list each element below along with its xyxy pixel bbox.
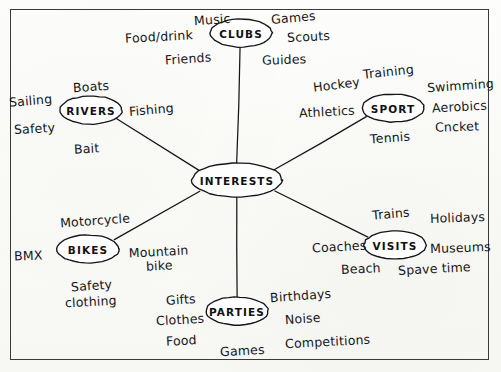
leaf-sport-4: Aerobics — [432, 99, 488, 115]
node-ellipse-rivers[interactable] — [60, 96, 122, 124]
mindmap-canvas — [0, 0, 501, 372]
leaf-sport-5: Cncket — [435, 119, 480, 134]
connector-interests-to-sport — [274, 117, 367, 170]
leaf-clubs-4: Friends — [165, 50, 212, 67]
leaf-visits-0: Trains — [371, 205, 410, 222]
node-ellipse-sport[interactable] — [362, 94, 424, 122]
node-ellipse-parties[interactable] — [206, 297, 268, 325]
node-ellipse-interests[interactable] — [191, 163, 282, 197]
leaf-parties-5: Games — [220, 343, 265, 359]
leaf-parties-3: Noise — [285, 311, 322, 327]
leaf-visits-4: Beach — [341, 261, 381, 277]
node-ellipse-bikes[interactable] — [57, 235, 120, 263]
leaf-rivers-3: Safety — [14, 121, 56, 137]
leaf-parties-4: Food — [166, 333, 197, 348]
leaf-parties-2: Clothes — [156, 312, 205, 328]
leaf-sport-6: Tennis — [370, 130, 411, 146]
leaf-sport-3: Athletics — [299, 104, 356, 120]
connector-interests-to-clubs — [237, 47, 240, 163]
node-ellipse-visits[interactable] — [364, 231, 427, 259]
leaf-visits-1: Holidays — [430, 210, 486, 225]
leaf-rivers-0: Boats — [73, 79, 110, 95]
leaf-bikes-3: Safety — [71, 278, 113, 294]
leaf-bikes-4: clothing — [65, 294, 117, 310]
leaf-clubs-3: Scouts — [287, 29, 331, 45]
connector-interests-to-rivers — [117, 119, 199, 170]
leaf-visits-2: Coaches — [312, 239, 367, 255]
leaf-rivers-4: Bait — [74, 141, 100, 156]
leaf-parties-0: Gifts — [166, 292, 197, 308]
leaf-clubs-5: Guides — [262, 52, 307, 67]
leaf-clubs-0: Music — [194, 12, 231, 28]
leaf-bikes-1: BMX — [14, 249, 43, 263]
leaf-bikes-2: Mountain bike — [127, 243, 190, 274]
leaf-visits-3: Museums — [430, 240, 491, 256]
mindmap-page: CLUBSMusicGamesFood/drinkScoutsFriendsGu… — [0, 0, 501, 372]
leaf-clubs-2: Food/drink — [125, 28, 194, 45]
connector-interests-to-visits — [275, 191, 368, 237]
